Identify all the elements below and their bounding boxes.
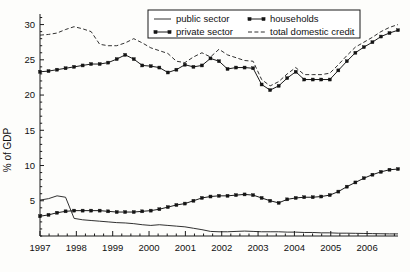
x-axis-tick-label: 2000 [138,242,159,253]
data-point-marker [260,83,263,86]
data-point-marker [252,194,255,197]
data-point-marker [320,195,323,198]
data-point-marker [175,68,178,71]
legend-label: private sector [176,26,233,37]
data-point-marker [311,78,314,81]
y-axis-tick-label: 30 [24,19,35,30]
data-point-marker [269,199,272,202]
data-point-marker [303,196,306,199]
data-point-marker [371,41,374,44]
data-point-marker [371,173,374,176]
legend-label: public sector [176,13,229,24]
data-point-marker [115,211,118,214]
data-point-marker [141,64,144,67]
x-axis-tick-label: 2004 [284,242,305,253]
data-point-marker [303,78,306,81]
data-point-marker [90,209,93,212]
data-point-marker [345,60,348,63]
data-point-marker [107,210,110,213]
y-axis-tick-label: 5 [30,195,35,206]
y-axis-tick-label: 10 [24,160,35,171]
data-point-marker [277,201,280,204]
data-point-marker [183,63,186,66]
data-point-marker [286,198,289,201]
data-point-marker [328,78,331,81]
data-point-marker [286,77,289,80]
data-point-marker [166,71,169,74]
data-point-marker [183,202,186,205]
data-point-marker [337,69,340,72]
data-point-marker [149,209,152,212]
x-axis-tick-label: 1998 [66,242,87,253]
chart-figure: 51015202530 1997199819992000200120022003… [0,0,410,272]
y-axis-tick-label: 25 [24,54,35,65]
x-axis-tick-label: 2003 [248,242,269,253]
data-point-marker [379,170,382,173]
legend-swatch-marker [262,17,265,20]
data-point-marker [47,70,50,73]
data-point-marker [124,53,127,56]
data-point-marker [328,194,331,197]
data-point-marker [64,67,67,70]
data-point-marker [115,58,118,61]
data-point-marker [388,32,391,35]
data-point-marker [252,67,255,70]
chart-background [0,0,410,272]
x-axis-tick-label: 2002 [211,242,232,253]
data-point-marker [260,196,263,199]
data-point-marker [56,68,59,71]
data-point-marker [64,210,67,213]
data-point-marker [243,66,246,69]
data-point-marker [218,194,221,197]
data-point-marker [98,63,101,66]
data-point-marker [175,203,178,206]
data-point-marker [362,177,365,180]
data-point-marker [235,66,238,69]
data-point-marker [73,65,76,68]
data-point-marker [141,210,144,213]
data-point-marker [200,64,203,67]
data-point-marker [354,181,357,184]
x-axis-tick-label: 1999 [102,242,123,253]
data-point-marker [158,208,161,211]
legend-swatch-marker [248,17,251,20]
data-point-marker [218,60,221,63]
x-axis-tick-label: 2006 [357,242,378,253]
data-point-marker [388,168,391,171]
x-axis-tick-label: 1997 [29,242,50,253]
y-axis-tick-label: 20 [24,89,35,100]
data-point-marker [192,199,195,202]
data-point-marker [294,196,297,199]
data-point-marker [277,84,280,87]
x-axis-tick-label: 2005 [320,242,341,253]
data-point-marker [73,209,76,212]
data-point-marker [81,64,84,67]
data-point-marker [98,209,101,212]
data-point-marker [294,70,297,73]
data-point-marker [90,63,93,66]
data-point-marker [269,89,272,92]
data-point-marker [243,193,246,196]
legend-swatch-marker [154,30,157,33]
data-point-marker [354,51,357,54]
data-point-marker [397,168,400,171]
legend-swatch-marker [168,30,171,33]
data-point-marker [200,196,203,199]
data-point-marker [166,206,169,209]
data-point-marker [320,78,323,81]
data-point-marker [226,67,229,70]
data-point-marker [81,209,84,212]
data-point-marker [39,70,42,73]
y-axis-label: % of GDP [2,127,13,172]
data-point-marker [235,194,238,197]
data-point-marker [132,58,135,61]
x-axis-tick-label: 2001 [175,242,196,253]
data-point-marker [209,195,212,198]
data-point-marker [47,213,50,216]
data-point-marker [107,61,110,64]
y-axis-tick-label: 15 [24,125,35,136]
data-point-marker [345,185,348,188]
data-point-marker [192,65,195,68]
data-point-marker [124,211,127,214]
data-point-marker [226,194,229,197]
